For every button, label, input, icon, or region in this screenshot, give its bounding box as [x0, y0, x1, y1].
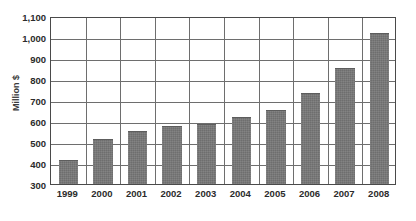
gridline-vertical — [259, 18, 260, 184]
y-axis-tick-label: 300 — [2, 180, 46, 191]
gridline-vertical — [362, 18, 363, 184]
x-axis-tick-label: 2006 — [299, 188, 320, 199]
bar-2006 — [301, 93, 320, 184]
x-axis-tick-label: 2001 — [126, 188, 147, 199]
bar-2000 — [93, 139, 112, 184]
y-axis-tick-label: 1,100 — [2, 12, 46, 23]
x-axis-tick-label: 1999 — [57, 188, 78, 199]
bar-2002 — [162, 126, 181, 184]
bar-2008 — [370, 33, 389, 184]
gridline-vertical — [86, 18, 87, 184]
gridline-horizontal — [51, 60, 395, 61]
x-axis-tick-label: 2003 — [195, 188, 216, 199]
y-axis-tick-labels: 3004005006007008009001,0001,100 — [2, 0, 46, 221]
bar-2004 — [232, 117, 251, 184]
y-axis-tick-label: 700 — [2, 96, 46, 107]
y-axis-tick-label: 1,000 — [2, 33, 46, 44]
gridline-vertical — [120, 18, 121, 184]
x-axis-tick-label: 2002 — [161, 188, 182, 199]
x-axis-tick-label: 2007 — [334, 188, 355, 199]
chart-screenshot: Million $ 3004005006007008009001,0001,10… — [0, 0, 416, 221]
bar-1999 — [59, 160, 78, 184]
gridline-horizontal — [51, 39, 395, 40]
plot-area — [50, 17, 396, 185]
y-axis-tick-label: 800 — [2, 75, 46, 86]
gridline-vertical — [224, 18, 225, 184]
gridline-vertical — [328, 18, 329, 184]
bar-2005 — [266, 110, 285, 185]
bar-2007 — [335, 68, 354, 185]
gridline-vertical — [293, 18, 294, 184]
x-axis-tick-label: 2000 — [91, 188, 112, 199]
x-axis-tick-label: 2008 — [368, 188, 389, 199]
x-axis-tick-label: 2004 — [230, 188, 251, 199]
y-axis-tick-label: 400 — [2, 159, 46, 170]
gridline-vertical — [189, 18, 190, 184]
gridline-vertical — [155, 18, 156, 184]
bar-2001 — [128, 131, 147, 185]
y-axis-tick-label: 500 — [2, 138, 46, 149]
x-axis-tick-labels: 1999200020012002200320042005200620072008 — [50, 188, 396, 208]
x-axis-tick-label: 2005 — [264, 188, 285, 199]
y-axis-tick-label: 900 — [2, 54, 46, 65]
plot-inner — [51, 18, 395, 184]
bar-2003 — [197, 124, 216, 184]
y-axis-tick-label: 600 — [2, 117, 46, 128]
